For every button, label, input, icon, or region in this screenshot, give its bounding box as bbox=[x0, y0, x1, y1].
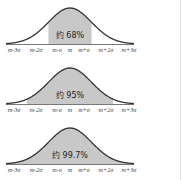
x-tick-label: m-3σ bbox=[8, 106, 22, 113]
probability-label: 约 99.7% bbox=[52, 150, 88, 160]
x-tick-label: m bbox=[68, 106, 73, 113]
x-tick-label: m bbox=[68, 166, 73, 173]
x-tick-label: m-2σ bbox=[30, 166, 44, 173]
bell-curve-3sigma: m-3σm-2σm-σmm+σm+2σm+3σ 约 99.7% bbox=[0, 120, 183, 180]
normal-curve-panel-2sigma: m-3σm-2σm-σmm+σm+2σm+3σ 约 95% bbox=[0, 60, 183, 120]
x-tick-label: m-σ bbox=[52, 46, 63, 53]
x-tick-label: m-2σ bbox=[30, 106, 44, 113]
x-tick-label: m-3σ bbox=[8, 166, 22, 173]
page-edge-divider bbox=[180, 0, 181, 180]
normal-curve-panel-3sigma: m-3σm-2σm-σmm+σm+2σm+3σ 约 99.7% bbox=[0, 120, 183, 180]
x-tick-label: m+3σ bbox=[122, 106, 138, 113]
x-tick-label: m+σ bbox=[78, 106, 91, 113]
x-tick-label: m+σ bbox=[78, 166, 91, 173]
normal-curve-panel-1sigma: m-3σm-2σm-σmm+σm+2σm+3σ 约 68% bbox=[0, 0, 183, 60]
bell-curve-1sigma: m-3σm-2σm-σmm+σm+2σm+3σ 约 68% bbox=[0, 0, 183, 60]
x-tick-label: m bbox=[68, 46, 73, 53]
x-tick-label: m+2σ bbox=[99, 166, 115, 173]
x-tick-label: m+σ bbox=[78, 46, 91, 53]
x-tick-label: m+2σ bbox=[99, 106, 115, 113]
x-tick-label: m-σ bbox=[52, 166, 63, 173]
bell-curve-2sigma: m-3σm-2σm-σmm+σm+2σm+3σ 约 95% bbox=[0, 60, 183, 120]
probability-label: 约 95% bbox=[56, 90, 85, 100]
x-tick-label: m-2σ bbox=[30, 46, 44, 53]
x-tick-label: m+2σ bbox=[99, 46, 115, 53]
probability-label: 约 68% bbox=[56, 30, 85, 40]
x-tick-label: m+3σ bbox=[122, 166, 138, 173]
x-tick-label: m+3σ bbox=[122, 46, 138, 53]
x-tick-label: m-σ bbox=[52, 106, 63, 113]
x-tick-label: m-3σ bbox=[8, 46, 22, 53]
